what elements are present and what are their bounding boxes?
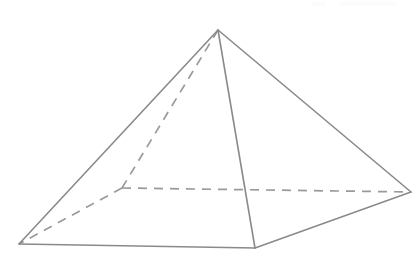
scan-artifact-top-right	[340, 1, 396, 6]
square-pyramid-figure	[0, 0, 418, 277]
face-left-front	[19, 30, 255, 248]
pyramid-faces	[19, 30, 411, 248]
scan-artifact-top-left	[312, 2, 326, 6]
figure-canvas	[0, 0, 418, 277]
